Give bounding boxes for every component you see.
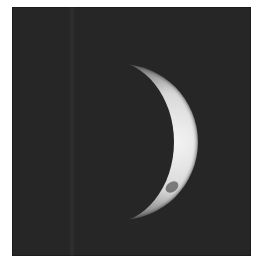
crescent-planet [12, 7, 251, 256]
planet-photo [12, 7, 251, 256]
